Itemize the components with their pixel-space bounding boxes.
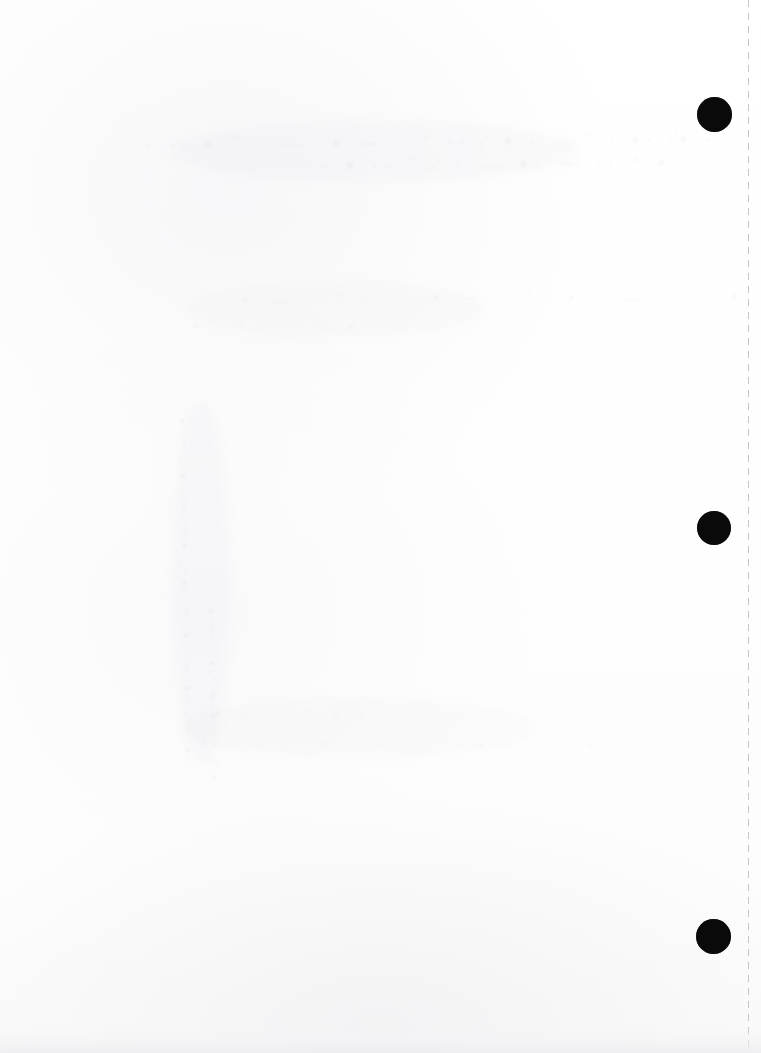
showthrough-middle-band: ·· • — · ˜ ⁄ ·· • ∼ · ‘· • · — ·· ⁄ • [200, 286, 747, 311]
showthrough-lower-smudge-2: · •· ⁄ — · ˜ • ·· ∼ ‘ [182, 736, 410, 753]
showthrough-upper-line-2: · • ·· ˜ ⁄ · — •· ∼ ·· ‘ • [322, 148, 672, 181]
registration-mark-top [697, 97, 732, 132]
scanned-page: · ·· • ˜ · — ·• ∼ · ‘ ·· ⁄ • · —˜ · •· ⁄… [0, 0, 761, 1053]
showthrough-lower-smudge: ·· • — · ˜ ⁄· • ∼ [184, 706, 372, 723]
bleed-smudge-column [172, 400, 230, 765]
showthrough-lower-smudge-3: ·· • — · ⁄ ˜ • [448, 738, 598, 754]
bleed-smudge-middle [186, 280, 486, 338]
bleed-smudge-upper [170, 120, 580, 182]
bottom-scan-shadow [0, 1027, 761, 1053]
showthrough-upper-line: · ·· • ˜ · — ·• ∼ · ‘ ·· ⁄ • · —˜ · •· ⁄… [144, 125, 717, 161]
registration-mark-bottom [696, 919, 731, 954]
showthrough-left-column: ·•·—˜·⁄•·∼·‘•·—·⁄•·˜·•—·∼⁄·•·‘—·•· [173, 402, 197, 762]
showthrough-left-column-2: ·•·⁄˜·—•·∼·‘•·⁄·—•·˜· [199, 430, 223, 790]
registration-mark-middle [697, 511, 731, 545]
paper-texture [0, 0, 761, 1053]
showthrough-middle-band-2: · • · ˜ ⁄ ·· — • · ∼ [170, 317, 415, 337]
bleed-smudge-lower [180, 698, 540, 758]
perforation-dashed-line [748, 0, 749, 1053]
